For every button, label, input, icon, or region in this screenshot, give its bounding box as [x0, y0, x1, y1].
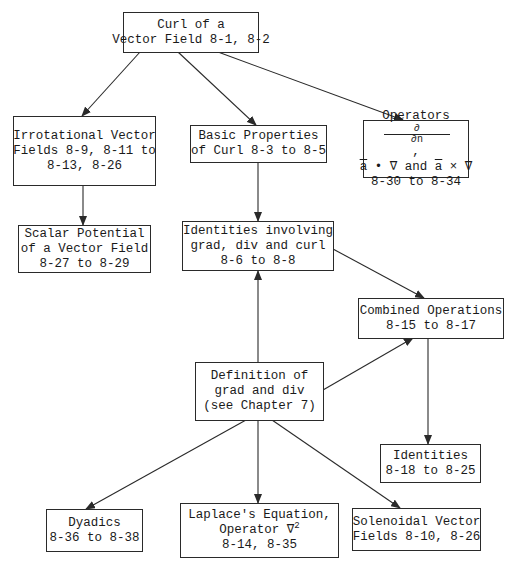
- node-text: Fields 8-10, 8-26: [353, 530, 481, 545]
- node-text: 8-6 to 8-8: [220, 254, 295, 269]
- edge-definition-combined: [323, 338, 413, 390]
- node-text: of Curl 8-3 to 8-5: [191, 144, 326, 159]
- node-text: of a Vector Field: [21, 242, 149, 257]
- vector-a: a: [360, 160, 368, 174]
- node-identities: Identities 8-18 to 8-25: [380, 444, 481, 483]
- operator-nabla: Operator ∇: [219, 523, 294, 537]
- edges-layer: [0, 0, 513, 569]
- node-text: Operators∂∂n,: [382, 109, 450, 160]
- node-text: Vector Field 8-1, 8-2: [112, 33, 270, 48]
- vector-a: a: [435, 160, 443, 174]
- node-text: Identities involving: [183, 224, 333, 239]
- node-text: 8-14, 8-35: [222, 538, 297, 553]
- node-text: 8-36 to 8-38: [49, 531, 139, 546]
- node-operators: Operators∂∂n, a • ∇ and a × ∇ 8-30 to 8-…: [363, 120, 469, 178]
- node-solenoidal: Solenoidal Vector Fields 8-10, 8-26: [352, 508, 481, 551]
- node-text: Irrotational Vector: [13, 129, 156, 144]
- node-text: 8-30 to 8-34: [371, 175, 461, 190]
- node-text: Laplace's Equation,: [188, 508, 331, 523]
- node-basic-properties: Basic Properties of Curl 8-3 to 8-5: [190, 125, 327, 163]
- node-scalar-potential: Scalar Potential of a Vector Field 8-27 …: [18, 225, 151, 273]
- node-text: Combined Operations: [360, 304, 503, 319]
- fraction-denominator: ∂n: [384, 135, 450, 145]
- edge-curl-operators: [218, 52, 403, 120]
- operators-label: Operators: [382, 109, 450, 123]
- node-text: 8-27 to 8-29: [39, 257, 129, 272]
- dot-operator: •: [375, 160, 383, 174]
- node-text: Basic Properties: [198, 129, 318, 144]
- node-text: Fields 8-9, 8-11 to: [13, 144, 156, 159]
- node-laplace: Laplace's Equation, Operator ∇2 8-14, 8-…: [180, 503, 339, 558]
- node-text: Curl of a: [157, 18, 225, 33]
- fraction-numerator: ∂: [384, 124, 450, 135]
- node-text: Scalar Potential: [24, 227, 144, 242]
- superscript-2: 2: [294, 521, 299, 531]
- node-irrotational: Irrotational Vector Fields 8-9, 8-11 to …: [13, 116, 156, 186]
- nabla-and: ∇ and: [390, 160, 428, 174]
- node-text: 8-13, 8-26: [47, 159, 122, 174]
- node-text: (see Chapter 7): [203, 399, 316, 414]
- node-dyadics: Dyadics 8-36 to 8-38: [46, 509, 143, 552]
- cross-nabla: × ∇: [450, 160, 473, 174]
- node-text: Identities: [393, 449, 468, 464]
- node-text: Dyadics: [68, 516, 121, 531]
- edge-curl-basic: [178, 52, 256, 125]
- node-combined-operations: Combined Operations 8-15 to 8-17: [358, 298, 504, 339]
- edge-identities-combined: [333, 249, 424, 298]
- edge-definition-dyadics: [86, 420, 246, 509]
- node-text: grad and div: [214, 384, 304, 399]
- node-text: 8-18 to 8-25: [385, 464, 475, 479]
- node-text: Definition of: [211, 369, 309, 384]
- node-curl: Curl of a Vector Field 8-1, 8-2: [123, 12, 259, 53]
- node-text: a • ∇ and a × ∇: [360, 160, 473, 175]
- edge-curl-irrotational: [82, 52, 140, 116]
- node-text: grad, div and curl: [190, 239, 325, 254]
- node-text: Operator ∇2: [219, 523, 299, 538]
- node-definition: Definition of grad and div (see Chapter …: [195, 362, 324, 421]
- partial-fraction: ∂∂n: [384, 124, 450, 145]
- node-identities-grad-div-curl: Identities involving grad, div and curl …: [182, 221, 334, 271]
- node-text: Solenoidal Vector: [353, 515, 481, 530]
- node-text: 8-15 to 8-17: [386, 319, 476, 334]
